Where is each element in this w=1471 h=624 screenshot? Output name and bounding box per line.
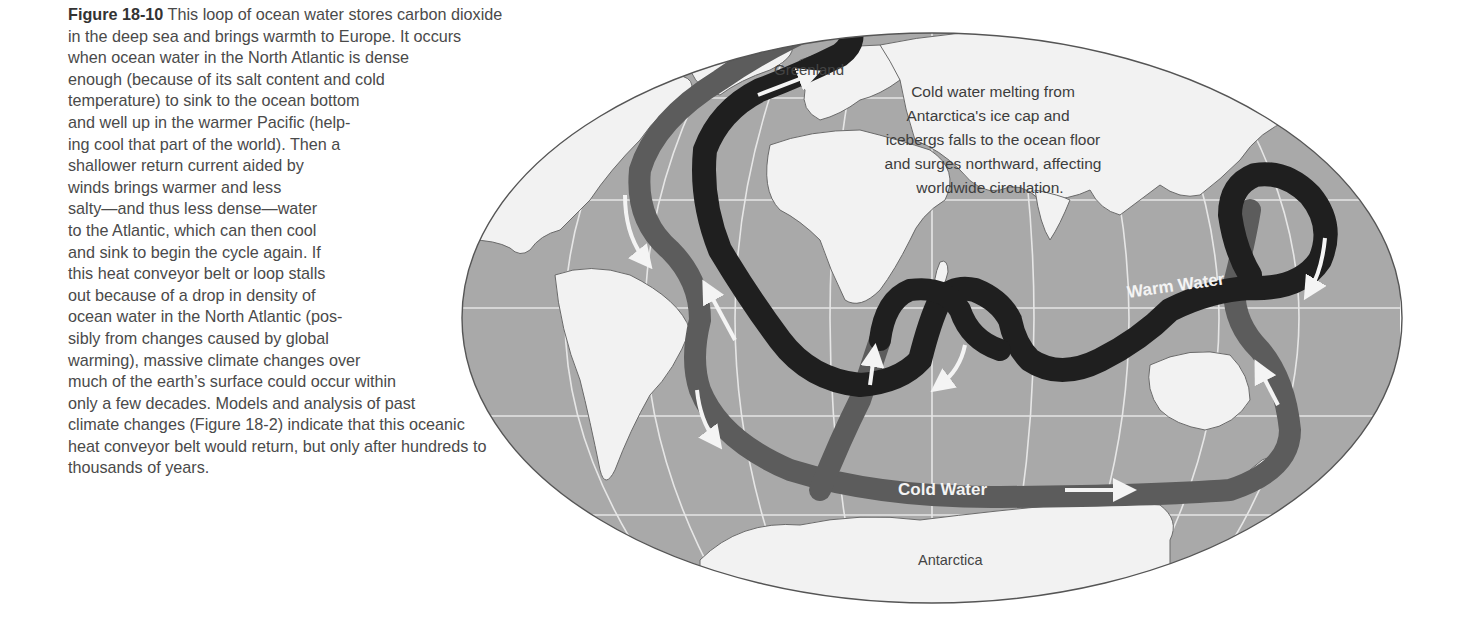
greenland-label: Greenland <box>774 61 844 78</box>
cold-water-label: Cold Water <box>898 480 987 499</box>
antarctica-label: Antarctica <box>918 552 983 568</box>
annotation-line: and surges northward, affecting <box>885 155 1102 172</box>
ocean-conveyor-map: Warm Water Cold Water Greenland Antarcti… <box>0 0 1471 624</box>
annotation-line: worldwide circulation. <box>915 179 1063 196</box>
annotation-line: icebergs falls to the ocean floor <box>886 131 1101 148</box>
annotation-line: Cold water melting from <box>911 83 1075 100</box>
annotation-line: Antarctica's ice cap and <box>906 107 1069 124</box>
